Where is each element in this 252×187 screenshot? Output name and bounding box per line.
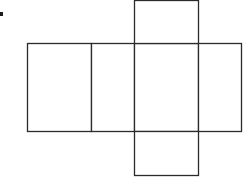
side-face-2: [199, 44, 242, 132]
top-flap: [135, 1, 199, 44]
bottom-flap: [135, 132, 199, 176]
bullet-marker: [0, 12, 3, 16]
net-faces: [28, 1, 242, 176]
side-face-1: [92, 44, 135, 132]
center-face: [135, 44, 199, 132]
box-net-diagram: [0, 0, 252, 187]
left-face: [28, 44, 92, 132]
